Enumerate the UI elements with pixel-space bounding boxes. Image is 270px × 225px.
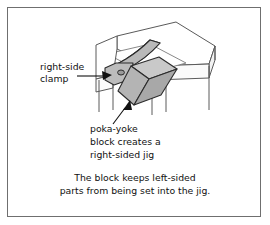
label-poka-yoke-block: poka-yoke block creates a right-sided ji… <box>90 123 161 160</box>
label-right-side-clamp-line1: right-side <box>40 61 85 72</box>
caption-line1: The block keeps left-sided <box>73 172 196 183</box>
caption-line2: parts from being set into the jig. <box>60 185 211 196</box>
label-poka-yoke-line3: right-sided jig <box>90 149 154 160</box>
figure-root: right-side clamp poka-yoke block creates… <box>0 0 270 225</box>
figure-caption: The block keeps left-sided parts from be… <box>60 172 211 196</box>
label-poka-yoke-line1: poka-yoke <box>90 123 138 134</box>
label-poka-yoke-line2: block creates a <box>90 136 161 147</box>
label-right-side-clamp: right-side clamp <box>40 61 85 84</box>
leader-poka-yoke-block <box>113 100 132 124</box>
label-right-side-clamp-line2: clamp <box>40 73 68 84</box>
figure-illustration: right-side clamp poka-yoke block creates… <box>0 0 270 225</box>
clamp-pivot-hole <box>118 70 125 75</box>
